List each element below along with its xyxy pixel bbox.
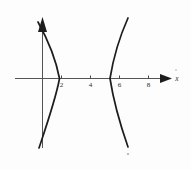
- tick-label-2: 2: [60, 81, 64, 89]
- graph-svg: 2 4 6 8 x: [0, 0, 191, 169]
- x-axis-label: x: [174, 74, 179, 83]
- x-axis-arrow-icon: [160, 74, 172, 83]
- tick-label-4: 4: [89, 81, 93, 89]
- figure-container: 2 4 6 8 x: [0, 0, 191, 169]
- scan-speck: [127, 153, 129, 155]
- tick-label-8: 8: [147, 81, 151, 89]
- scan-speck: [175, 69, 176, 70]
- tick-label-6: 6: [118, 81, 122, 89]
- curve-left-parabola: [38, 22, 60, 148]
